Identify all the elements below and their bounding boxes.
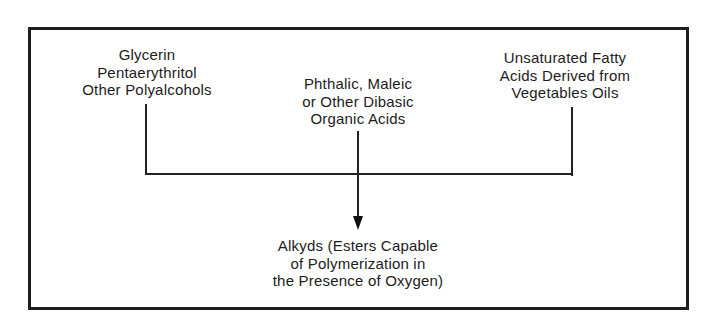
node-alkyds-line-2: of Polymerization in	[258, 255, 458, 273]
node-alkyds: Alkyds (Esters Capable of Polymerization…	[258, 237, 458, 290]
connector-horizontal-bus	[145, 173, 573, 175]
connector-left-vertical	[145, 104, 147, 175]
node-polyalcohols-line-1: Glycerin	[67, 46, 227, 64]
node-fatty-acids-line-1: Unsaturated Fatty	[485, 49, 645, 67]
node-polyalcohols: Glycerin Pentaerythritol Other Polyalcoh…	[67, 46, 227, 99]
node-polyalcohols-line-2: Pentaerythritol	[67, 64, 227, 82]
node-polyalcohols-line-3: Other Polyalcohols	[67, 81, 227, 99]
node-fatty-acids: Unsaturated Fatty Acids Derived from Veg…	[485, 49, 645, 102]
arrow-down-icon	[353, 216, 363, 230]
connector-center-vertical	[357, 131, 359, 219]
node-dibasic-acids-line-2: or Other Dibasic	[283, 93, 433, 111]
node-fatty-acids-line-2: Acids Derived from	[485, 67, 645, 85]
node-dibasic-acids-line-3: Organic Acids	[283, 110, 433, 128]
node-alkyds-line-3: the Presence of Oxygen)	[258, 272, 458, 290]
node-fatty-acids-line-3: Vegetables Oils	[485, 84, 645, 102]
connector-right-vertical	[571, 107, 573, 176]
node-dibasic-acids-line-1: Phthalic, Maleic	[283, 75, 433, 93]
node-dibasic-acids: Phthalic, Maleic or Other Dibasic Organi…	[283, 75, 433, 128]
node-alkyds-line-1: Alkyds (Esters Capable	[258, 237, 458, 255]
